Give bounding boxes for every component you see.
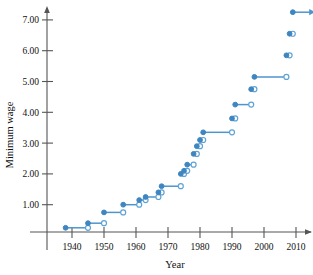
y-axis-label: Minimum wage: [4, 101, 15, 168]
x-tick-label: 1960: [127, 242, 146, 252]
y-tick-label: 6.00: [22, 46, 39, 56]
closed-endpoint-marker: [290, 10, 295, 15]
x-axis-arrowhead-icon: [305, 229, 312, 235]
closed-endpoint-marker: [230, 116, 235, 121]
x-axis-label: Year: [165, 259, 185, 270]
closed-endpoint-marker: [287, 31, 292, 36]
closed-endpoint-marker: [182, 168, 187, 173]
y-tick-label: 2.00: [22, 169, 39, 179]
step-segment: [121, 202, 142, 207]
open-endpoint-marker: [230, 130, 235, 135]
closed-endpoint-marker: [252, 74, 257, 79]
closed-endpoint-marker: [159, 184, 164, 189]
closed-endpoint-marker: [121, 202, 126, 207]
x-tick-label: 1950: [95, 242, 114, 252]
y-tick-label: 3.00: [22, 139, 39, 149]
x-tick-label: 1940: [63, 242, 82, 252]
series-arrowhead-icon: [309, 9, 313, 15]
open-endpoint-marker: [102, 221, 107, 226]
step-segment: [290, 9, 313, 15]
step-segment: [287, 31, 295, 36]
y-tick-label: 7.00: [22, 15, 39, 25]
closed-endpoint-marker: [102, 210, 107, 215]
open-endpoint-marker: [178, 184, 183, 189]
step-segment: [185, 162, 196, 167]
x-axis-tick-group: 19401950196019701980199020002010: [63, 227, 306, 252]
closed-endpoint-marker: [284, 53, 289, 58]
closed-endpoint-marker: [191, 151, 196, 156]
y-axis-arrowhead-icon: [44, 6, 50, 13]
y-tick-label: 1.00: [22, 200, 39, 210]
step-segment: [156, 190, 164, 195]
step-segment: [233, 102, 254, 107]
closed-endpoint-marker: [86, 221, 91, 226]
open-endpoint-marker: [249, 102, 254, 107]
closed-endpoint-marker: [233, 102, 238, 107]
open-endpoint-marker: [121, 210, 126, 215]
step-segment: [159, 184, 183, 189]
closed-endpoint-marker: [194, 144, 199, 149]
step-segment: [230, 116, 238, 121]
x-tick-label: 2000: [255, 242, 274, 252]
step-series-layer: [63, 9, 313, 230]
closed-endpoint-marker: [63, 225, 68, 230]
closed-endpoint-marker: [198, 138, 203, 143]
step-segment: [86, 221, 107, 226]
step-segment: [191, 151, 199, 156]
closed-endpoint-marker: [156, 190, 161, 195]
step-segment: [284, 53, 292, 58]
x-tick-label: 1990: [223, 242, 242, 252]
closed-endpoint-marker: [137, 198, 142, 203]
closed-endpoint-marker: [201, 130, 206, 135]
x-tick-label: 2010: [287, 242, 306, 252]
y-axis-tick-group: 1.002.003.004.005.006.007.00: [22, 15, 53, 210]
y-tick-label: 5.00: [22, 77, 39, 87]
minimum-wage-step-chart: 1.002.003.004.005.006.007.00 19401950196…: [0, 0, 313, 275]
open-endpoint-marker: [191, 162, 196, 167]
closed-endpoint-marker: [143, 195, 148, 200]
step-segment: [182, 168, 190, 173]
chart-figure: 1.002.003.004.005.006.007.00 19401950196…: [0, 0, 313, 275]
x-tick-label: 1970: [159, 242, 178, 252]
step-segment: [201, 130, 235, 135]
x-tick-label: 1980: [191, 242, 210, 252]
step-segment: [194, 144, 202, 149]
step-segment: [63, 225, 90, 230]
closed-endpoint-marker: [249, 87, 254, 92]
open-endpoint-marker: [284, 74, 289, 79]
step-segment: [252, 74, 289, 79]
closed-endpoint-marker: [185, 162, 190, 167]
y-tick-label: 4.00: [22, 108, 39, 118]
step-segment: [102, 210, 126, 215]
step-segment: [249, 87, 257, 92]
step-segment: [198, 138, 206, 143]
